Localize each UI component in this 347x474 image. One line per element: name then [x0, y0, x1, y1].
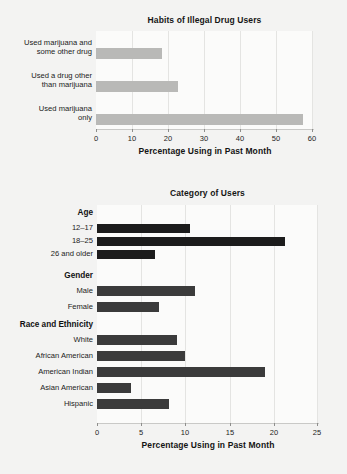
x-tick — [274, 423, 275, 426]
y-category-label-american-indian: American Indian — [0, 367, 93, 376]
y-category-label-used-marijuana-and-some-other-drug: Used marijuana and some other drug — [0, 38, 92, 57]
x-axis-line-habits — [96, 129, 314, 130]
x-tick — [230, 423, 231, 426]
x-tick — [317, 423, 318, 426]
bar-race-african-american — [97, 351, 185, 361]
x-tick — [168, 129, 169, 132]
x-tick-label: 15 — [226, 428, 234, 437]
x-tick-label: 60 — [308, 134, 316, 143]
x-tick-label: 5 — [139, 428, 143, 437]
bar-race-asian-american — [97, 383, 131, 393]
y-category-label-asian-american: Asian American — [0, 383, 93, 392]
label-line: than marijuana — [42, 80, 92, 89]
x-tick-label: 10 — [181, 428, 189, 437]
x-tick-label: 20 — [270, 428, 278, 437]
x-tick-label: 25 — [313, 428, 321, 437]
x-tick — [185, 423, 186, 426]
plot-area-habits — [96, 31, 313, 129]
y-category-label-18-25: 18–25 — [0, 236, 93, 245]
x-axis-title-habits: Percentage Using in Past Month — [96, 146, 314, 156]
x-tick-label: 0 — [95, 428, 99, 437]
x-tick — [312, 129, 313, 132]
label-line: Used marijuana and — [24, 38, 92, 47]
y-category-label-female: Female — [0, 302, 93, 311]
gridline — [317, 205, 318, 423]
bar-race-hispanic — [97, 399, 169, 409]
bar-used-marijuana-and-some-other-drug — [96, 48, 162, 59]
y-category-label-used-marijuana-only: Used marijuana only — [0, 104, 92, 123]
bar-used-marijuana-only — [96, 114, 303, 125]
plot-area-category-of-users — [97, 205, 318, 423]
x-tick-label: 30 — [200, 134, 208, 143]
bar-used-a-drug-other-than-marijuana — [96, 81, 178, 92]
gridline — [312, 31, 313, 129]
bar-race-white — [97, 335, 177, 345]
group-label-race-and-ethnicity: Race and Ethnicity — [0, 320, 93, 329]
y-category-label-white: White — [0, 335, 93, 344]
group-label-gender: Gender — [0, 271, 93, 280]
x-tick-label: 10 — [128, 134, 136, 143]
bar-age-12-17 — [97, 224, 190, 233]
chart-title-category-of-users: Category of Users — [97, 188, 318, 198]
label-line: Used a drug other — [31, 71, 92, 80]
label-line: Used marijuana — [39, 104, 92, 113]
x-tick — [96, 129, 97, 132]
x-tick — [132, 129, 133, 132]
bar-race-american-indian — [97, 367, 265, 377]
bar-gender-female — [97, 302, 159, 312]
x-tick — [240, 129, 241, 132]
bar-age-18-25 — [97, 237, 285, 246]
x-tick — [97, 423, 98, 426]
x-axis-title-category-of-users: Percentage Using in Past Month — [97, 440, 319, 450]
x-axis-line-category-of-users — [97, 423, 319, 424]
x-tick — [141, 423, 142, 426]
x-tick — [276, 129, 277, 132]
x-tick-label: 40 — [236, 134, 244, 143]
bar-age-26-and-older — [97, 250, 155, 259]
x-tick-label: 0 — [94, 134, 98, 143]
y-category-label-12-17: 12–17 — [0, 223, 93, 232]
y-category-label-26-and-older: 26 and older — [0, 249, 93, 258]
y-category-label-hispanic: Hispanic — [0, 399, 93, 408]
y-category-label-male: Male — [0, 286, 93, 295]
x-tick-label: 20 — [164, 134, 172, 143]
group-label-age: Age — [0, 208, 93, 217]
figure-canvas: Habits of Illegal Drug Users 0 10 20 30 … — [0, 0, 347, 474]
y-category-label-used-a-drug-other-than-marijuana: Used a drug other than marijuana — [0, 71, 92, 90]
label-line: some other drug — [37, 47, 92, 56]
chart-title-habits: Habits of Illegal Drug Users — [96, 15, 313, 25]
label-line: only — [78, 113, 92, 122]
y-category-label-african-american: African American — [0, 351, 93, 360]
x-tick — [204, 129, 205, 132]
bar-gender-male — [97, 286, 195, 296]
x-tick-label: 50 — [272, 134, 280, 143]
